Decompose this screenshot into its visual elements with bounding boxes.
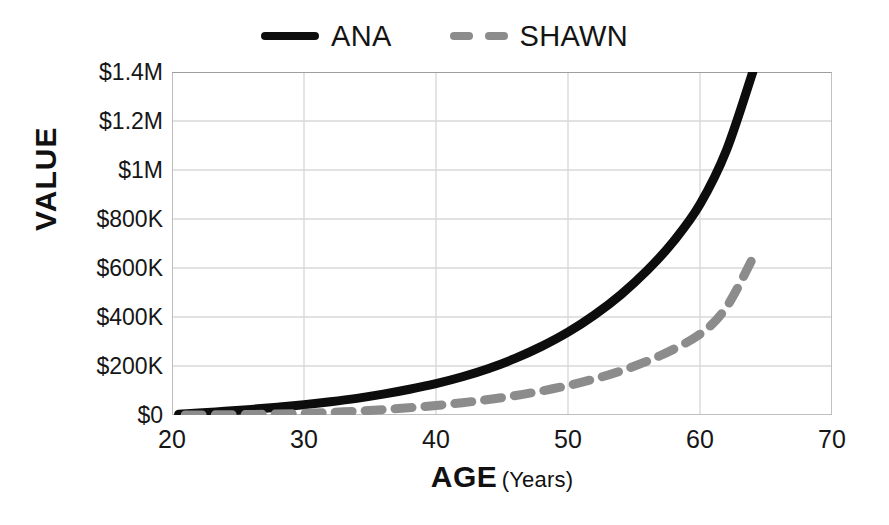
x-axis-tick-label: 60: [670, 427, 730, 452]
x-axis-tick-label: 50: [538, 427, 598, 452]
series-line-shawn: [185, 258, 753, 415]
plot-area: [172, 72, 832, 415]
x-axis-tick-label: 40: [406, 427, 466, 452]
x-axis-tick-label: 20: [142, 427, 202, 452]
y-axis-title: VALUE: [29, 175, 63, 231]
x-axis-tick-label: 70: [802, 427, 862, 452]
x-axis-title: AGE (Years): [172, 460, 832, 494]
chart-canvas: [172, 72, 832, 415]
x-axis-title-main: AGE: [431, 460, 498, 493]
x-axis-title-unit: (Years): [502, 467, 574, 492]
x-axis-tick-label: 30: [274, 427, 334, 452]
series-line-ana: [179, 72, 753, 414]
chart-page: ANA SHAWN $0$200K$400K$600K$800K$1M$1.2M…: [0, 0, 889, 525]
